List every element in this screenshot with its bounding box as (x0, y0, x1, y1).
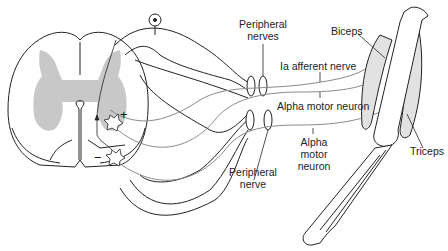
label-biceps: Biceps (331, 25, 363, 37)
label-line: motor (297, 148, 331, 160)
label-line: nerves (238, 30, 288, 42)
diagram-artwork (0, 0, 448, 251)
label-peripheral-nerves: Peripheral nerves (238, 18, 288, 42)
nerve-fibers (110, 64, 405, 180)
label-ia-afferent-nerve: Ia afferent nerve (280, 60, 356, 72)
reflex-arc-diagram: + − Peripheral nerves Ia afferent nerve … (0, 0, 448, 251)
label-triceps: Triceps (410, 145, 444, 157)
spinal-cord-cross-section (8, 32, 148, 167)
arm-anatomy (303, 7, 428, 245)
label-alpha-motor-neuron-top: Alpha motor neuron (277, 100, 369, 112)
label-line: Peripheral (238, 18, 288, 30)
label-line: neuron (297, 160, 331, 172)
label-line: nerve (228, 178, 278, 190)
label-line: Peripheral (228, 166, 278, 178)
label-line: Alpha (297, 136, 331, 148)
label-peripheral-nerve: Peripheral nerve (228, 166, 278, 190)
label-alpha-motor-neuron-bottom: Alpha motor neuron (297, 136, 331, 172)
excitatory-sign: + (120, 109, 128, 121)
inhibitory-sign: − (94, 152, 102, 164)
